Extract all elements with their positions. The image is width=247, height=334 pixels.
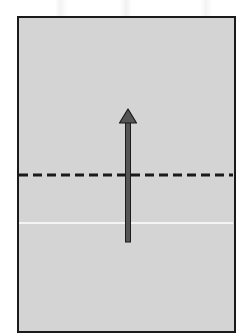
diagram-overlay — [0, 0, 247, 334]
